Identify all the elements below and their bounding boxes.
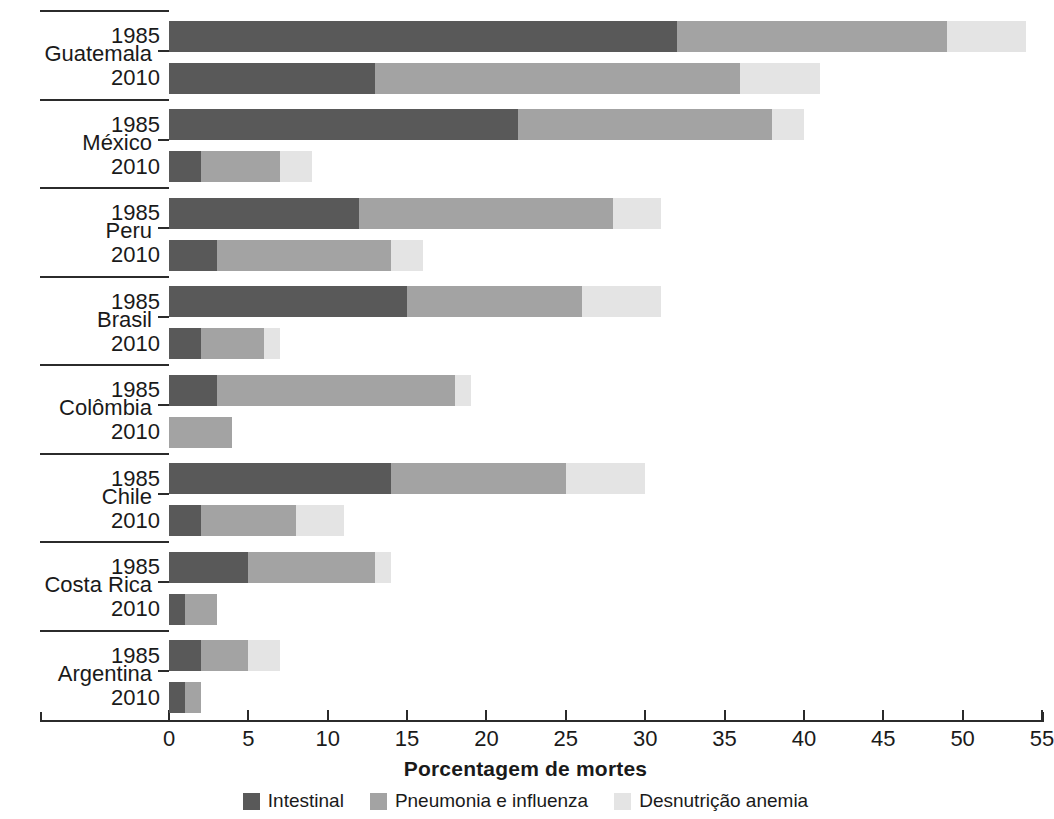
stacked-bar xyxy=(169,21,1026,52)
bar-segment xyxy=(201,328,264,359)
year-label: 1985 xyxy=(0,554,160,580)
year-label: 1985 xyxy=(0,23,160,49)
bar-segment xyxy=(217,240,392,271)
year-label: 1985 xyxy=(0,112,160,138)
group-mid-tick xyxy=(158,316,169,318)
stacked-bar xyxy=(169,240,423,271)
legend-item: Desnutrição anemia xyxy=(614,790,808,812)
bar-segment xyxy=(201,640,249,671)
bar-segment xyxy=(518,109,772,140)
x-axis-tick-label: 50 xyxy=(950,726,974,752)
group-mid-tick xyxy=(158,50,169,52)
stacked-bar xyxy=(169,594,217,625)
bar-segment xyxy=(375,552,391,583)
x-axis-left-cap xyxy=(40,712,42,722)
bar-segment xyxy=(359,198,613,229)
year-label: 2010 xyxy=(0,242,160,268)
x-axis-tick-label: 10 xyxy=(315,726,339,752)
x-axis-tick-label: 0 xyxy=(163,726,175,752)
bar-segment xyxy=(169,417,232,448)
group-separator xyxy=(40,541,169,543)
x-axis-tick-label: 35 xyxy=(712,726,736,752)
bar-segment xyxy=(169,240,217,271)
stacked-bar xyxy=(169,552,391,583)
bar-segment xyxy=(169,109,518,140)
x-axis-right-cap xyxy=(1042,712,1044,722)
stacked-bar xyxy=(169,286,661,317)
year-label: 2010 xyxy=(0,419,160,445)
x-axis-tick-label: 55 xyxy=(1030,726,1054,752)
bar-segment xyxy=(169,328,201,359)
group-mid-tick xyxy=(158,404,169,406)
group-mid-tick xyxy=(158,670,169,672)
bar-segment xyxy=(455,375,471,406)
group-separator xyxy=(40,10,169,12)
bar-segment xyxy=(391,463,566,494)
bar-segment xyxy=(169,505,201,536)
stacked-bar xyxy=(169,463,645,494)
x-axis-tick-label: 5 xyxy=(242,726,254,752)
bar-segment xyxy=(248,640,280,671)
group-separator xyxy=(40,630,169,632)
bar-segment xyxy=(264,328,280,359)
group-mid-tick xyxy=(158,227,169,229)
bar-segment xyxy=(169,682,185,713)
bar-segment xyxy=(169,594,185,625)
bar-segment xyxy=(740,63,819,94)
legend-swatch-icon xyxy=(614,793,631,810)
stacked-bar xyxy=(169,417,232,448)
legend-item: Intestinal xyxy=(243,790,344,812)
bar-segment xyxy=(407,286,582,317)
year-label: 1985 xyxy=(0,289,160,315)
bar-segment xyxy=(217,375,455,406)
year-label: 1985 xyxy=(0,466,160,492)
x-axis-title: Porcentagem de mortes xyxy=(0,757,1051,781)
year-label: 2010 xyxy=(0,596,160,622)
year-label: 2010 xyxy=(0,685,160,711)
stacked-bar xyxy=(169,151,312,182)
group-mid-tick xyxy=(158,139,169,141)
stacked-bar xyxy=(169,505,344,536)
stacked-bar xyxy=(169,682,201,713)
year-label: 2010 xyxy=(0,65,160,91)
stacked-bar xyxy=(169,198,661,229)
legend-label: Pneumonia e influenza xyxy=(395,790,588,812)
bar-segment xyxy=(185,594,217,625)
year-label: 1985 xyxy=(0,377,160,403)
group-mid-tick xyxy=(158,493,169,495)
bar-segment xyxy=(391,240,423,271)
bar-segment xyxy=(296,505,344,536)
year-label: 1985 xyxy=(0,643,160,669)
bar-segment xyxy=(613,198,661,229)
bar-segment xyxy=(169,151,201,182)
x-axis-tick-label: 45 xyxy=(871,726,895,752)
x-axis-tick-label: 30 xyxy=(633,726,657,752)
group-separator xyxy=(40,187,169,189)
stacked-bar xyxy=(169,328,280,359)
bar-segment xyxy=(772,109,804,140)
x-axis-tick-label: 15 xyxy=(395,726,419,752)
x-axis-tick-label: 20 xyxy=(474,726,498,752)
x-axis-tick-label: 40 xyxy=(792,726,816,752)
group-separator xyxy=(40,276,169,278)
bar-segment xyxy=(169,198,359,229)
bar-segment xyxy=(677,21,947,52)
bar-segment xyxy=(169,286,407,317)
year-label: 2010 xyxy=(0,331,160,357)
legend-swatch-icon xyxy=(243,793,260,810)
group-mid-tick xyxy=(158,581,169,583)
year-label: 2010 xyxy=(0,154,160,180)
stacked-bar xyxy=(169,640,280,671)
bar-segment xyxy=(169,463,391,494)
bar-segment xyxy=(169,640,201,671)
bar-segment xyxy=(582,286,661,317)
group-separator xyxy=(40,453,169,455)
year-label: 1985 xyxy=(0,200,160,226)
bar-segment xyxy=(201,505,296,536)
bar-segment xyxy=(169,63,375,94)
bar-segment xyxy=(201,151,280,182)
group-separator xyxy=(40,99,169,101)
bar-segment xyxy=(375,63,740,94)
bar-segment xyxy=(947,21,1026,52)
